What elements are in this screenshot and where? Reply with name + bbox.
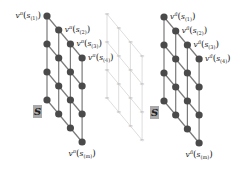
state-node (172, 83, 179, 90)
state-node (160, 69, 167, 76)
ghost-node-marker: ≈ (128, 66, 133, 73)
state-set-label: S (151, 107, 158, 118)
ghost-node-marker: ≈ (116, 52, 121, 59)
value-label-s1: vπ(s(1)) (15, 10, 41, 21)
row-edge (47, 72, 82, 114)
ghost-node-marker: ≈ (104, 10, 109, 17)
state-node (79, 54, 86, 61)
value-label-s3: vπ̃(s(3)) (193, 39, 219, 50)
ghost-node-marker: ≈ (140, 136, 145, 143)
state-node (196, 55, 203, 62)
state-node (67, 124, 74, 131)
row-edge (164, 73, 199, 115)
state-node (160, 13, 167, 20)
ghost-node-marker: ≈ (116, 108, 121, 115)
ghost-node-marker: ≈ (104, 66, 109, 73)
row-edge (164, 45, 199, 87)
state-node (172, 55, 179, 62)
ghost-node-marker: ≈ (104, 38, 109, 45)
state-node (55, 54, 62, 61)
state-node (43, 12, 50, 19)
ghost-node-marker: ≈ (140, 52, 145, 59)
value-label-s2: vπ(s(2)) (65, 24, 91, 35)
state-node (160, 97, 167, 104)
ghost-node-marker: ≈ (128, 94, 133, 101)
row-edge (107, 98, 142, 140)
value-label-s2: vπ̃(s(2)) (182, 25, 208, 36)
state-node (43, 96, 50, 103)
value-label-sm: vπ(s(m)) (69, 148, 96, 159)
value-label-s4: vπ̃(s(4)) (205, 53, 231, 64)
state-node (55, 82, 62, 89)
state-node (196, 139, 203, 146)
state-set-label: S (34, 106, 41, 117)
row-edge (164, 17, 199, 59)
row-edge (47, 100, 82, 142)
state-node (55, 26, 62, 33)
state-node (184, 69, 191, 76)
ghost-node-marker: ≈ (116, 24, 121, 31)
lattice-diagram: vπ(s(1))vπ(s(2))vπ(s(3))vπ(s(4))vπ(s(m))… (0, 0, 245, 174)
row-edge (47, 16, 82, 58)
ghost-node-marker: ≈ (140, 108, 145, 115)
state-node (79, 138, 86, 145)
state-node (79, 82, 86, 89)
ghost-node-marker: ≈ (104, 94, 109, 101)
right-value-lattice: vπ̃(s(1))vπ̃(s(2))vπ̃(s(3))vπ̃(s(4))vπ̃(… (150, 11, 231, 160)
state-node (67, 96, 74, 103)
state-node (184, 125, 191, 132)
state-node (43, 68, 50, 75)
state-node (160, 41, 167, 48)
state-node (172, 111, 179, 118)
row-edge (107, 14, 142, 56)
state-node (196, 83, 203, 90)
row-edge (107, 42, 142, 84)
left-value-lattice: vπ(s(1))vπ(s(2))vπ(s(3))vπ(s(4))vπ(s(m))… (15, 10, 113, 159)
ghost-node-marker: ≈ (128, 122, 133, 129)
value-label-s1: vπ̃(s(1)) (170, 11, 196, 22)
middle-ghost-lattice: ≈≈≈≈≈≈≈≈≈≈≈≈≈≈≈≈ (104, 10, 144, 143)
state-node (67, 68, 74, 75)
row-edge (164, 101, 199, 143)
row-edge (107, 70, 142, 112)
value-label-s3: vπ(s(3)) (76, 38, 102, 49)
state-node (43, 40, 50, 47)
state-node (79, 110, 86, 117)
ghost-node-marker: ≈ (140, 80, 145, 87)
value-label-sm: vπ̃(s(m)) (186, 149, 213, 160)
state-node (184, 41, 191, 48)
state-node (67, 40, 74, 47)
state-node (55, 110, 62, 117)
ghost-node-marker: ≈ (128, 38, 133, 45)
state-node (196, 111, 203, 118)
state-node (184, 97, 191, 104)
value-label-s4: vπ(s(4)) (88, 52, 114, 63)
state-node (172, 27, 179, 34)
row-edge (47, 44, 82, 86)
ghost-node-marker: ≈ (116, 80, 121, 87)
